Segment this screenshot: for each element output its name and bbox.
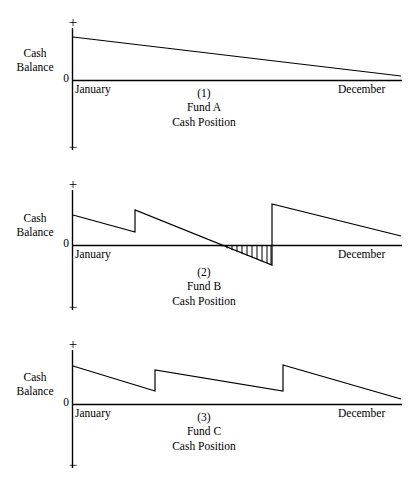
fund-a-data-line — [73, 37, 401, 76]
y-axis-label-line1: Cash — [6, 47, 64, 61]
chart-panel-fund-c: Cash Balance + 0 − January December (3) … — [0, 322, 410, 483]
y-axis-label-fund-b: Cash Balance — [6, 212, 64, 240]
panel-caption-fund-c: Cash Position — [114, 439, 294, 453]
x-axis-end-label-fund-a: December — [338, 84, 385, 96]
x-axis-start-label-fund-b: January — [75, 249, 111, 261]
y-axis-label-line2: Balance — [6, 61, 64, 75]
caption-fund-c: (3) Fund C Cash Position — [114, 410, 294, 453]
y-axis-label-fund-c: Cash Balance — [6, 371, 64, 399]
y-axis-label-fund-a: Cash Balance — [6, 47, 64, 75]
chart-panel-fund-b: Cash Balance + 0 − January December (2) … — [0, 162, 410, 322]
plus-sign-fund-b: + — [66, 177, 80, 192]
y-axis-label-line1: Cash — [6, 212, 64, 226]
zero-tick-label-fund-b: 0 — [57, 238, 69, 250]
plus-sign-fund-a: + — [66, 15, 80, 30]
y-axis-label-line2: Balance — [6, 226, 64, 240]
minus-sign-fund-a: − — [66, 140, 80, 155]
fund-c-data-line — [73, 365, 401, 399]
figure-root: Cash Balance + 0 − January December (1) … — [0, 0, 410, 483]
caption-fund-a: (1) Fund A Cash Position — [114, 86, 294, 129]
plus-sign-fund-c: + — [66, 337, 80, 352]
x-axis-end-label-fund-b: December — [338, 249, 385, 261]
minus-sign-fund-b: − — [66, 300, 80, 315]
fund-name-fund-b: Fund B — [114, 279, 294, 293]
x-axis-start-label-fund-a: January — [75, 84, 111, 96]
minus-sign-fund-c: − — [66, 458, 80, 473]
x-axis-start-label-fund-c: January — [75, 408, 111, 420]
zero-tick-label-fund-c: 0 — [57, 397, 69, 409]
chart-panel-fund-a: Cash Balance + 0 − January December (1) … — [0, 0, 410, 162]
fund-name-fund-c: Fund C — [114, 424, 294, 438]
caption-fund-b: (2) Fund B Cash Position — [114, 265, 294, 308]
panel-caption-fund-b: Cash Position — [114, 294, 294, 308]
fund-name-fund-a: Fund A — [114, 100, 294, 114]
x-axis-end-label-fund-c: December — [338, 408, 385, 420]
zero-tick-label-fund-a: 0 — [57, 73, 69, 85]
panel-caption-fund-a: Cash Position — [114, 115, 294, 129]
panel-number-fund-b: (2) — [114, 265, 294, 279]
y-axis-label-line1: Cash — [6, 371, 64, 385]
y-axis-label-line2: Balance — [6, 385, 64, 399]
panel-number-fund-a: (1) — [114, 86, 294, 100]
panel-number-fund-c: (3) — [114, 410, 294, 424]
